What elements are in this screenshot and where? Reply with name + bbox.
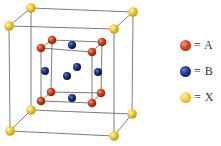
b-atom-top: [68, 41, 76, 49]
b-atom-swatch-icon: [180, 66, 191, 77]
x-atoms: [4, 3, 138, 141]
a-atom-swatch-icon: [180, 40, 191, 51]
b-atom-left: [41, 67, 49, 75]
legend-item-b: = B: [180, 63, 213, 79]
b-atom-bottom: [68, 94, 76, 102]
b-atom-front: [63, 72, 71, 80]
legend-label-a: = A: [194, 38, 213, 53]
b-atom-back: [73, 63, 81, 71]
legend-label-x: = X: [194, 90, 214, 105]
x-atom-swatch-icon: [180, 92, 191, 103]
legend-item-x: = X: [180, 89, 214, 105]
b-atom-right: [94, 68, 102, 76]
legend-item-a: = A: [180, 37, 213, 53]
legend-label-b: = B: [194, 64, 213, 79]
